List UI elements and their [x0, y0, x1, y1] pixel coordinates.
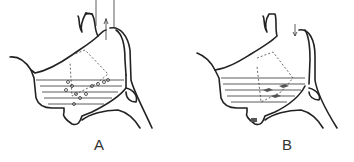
anatomy-diagram: [0, 0, 354, 162]
panel-a-drawing: [10, 0, 152, 128]
panel-b-drawing: [197, 14, 337, 128]
panel-label-b: B: [282, 136, 292, 153]
panel-label-a: A: [94, 136, 104, 153]
